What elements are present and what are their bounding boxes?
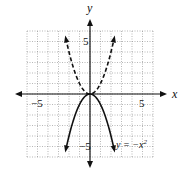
y-axis-bottom-arrow-icon xyxy=(87,161,93,168)
curve-arrow-icon xyxy=(64,145,69,152)
curve-arrow-icon xyxy=(111,36,116,43)
curve-annotation: y = −x2 xyxy=(116,139,147,150)
y-tick-label-neg5: −5 xyxy=(79,141,91,152)
x-axis-right-arrow-icon xyxy=(160,91,167,97)
curve-annotation-text: y = −x xyxy=(116,139,143,150)
curve-annotation-exponent: 2 xyxy=(143,138,147,146)
y-axis-label: y xyxy=(87,2,92,14)
x-axis-label: x xyxy=(172,88,177,100)
y-tick-label-5: 5 xyxy=(83,36,89,47)
x-axis-left-arrow-icon xyxy=(15,91,22,97)
y-axis-top-arrow-icon xyxy=(87,19,93,26)
curve-arrow-icon xyxy=(64,36,69,43)
x-tick-label-5: 5 xyxy=(139,98,145,109)
coordinate-plane xyxy=(0,0,186,182)
x-tick-label-neg5: −5 xyxy=(31,98,43,109)
